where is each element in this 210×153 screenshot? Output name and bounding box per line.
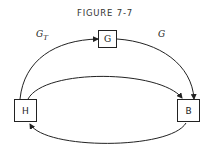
node-label: H: [22, 106, 29, 116]
node-g: G: [98, 30, 117, 48]
edge-label-subscript: T: [43, 34, 48, 42]
edge-h-to-g: [20, 39, 98, 99]
edge-label-h-to-g: GT: [36, 29, 48, 42]
edge-h-to-b: [28, 76, 182, 99]
edge-g-to-b: [117, 39, 194, 99]
node-label: G: [104, 34, 111, 44]
edge-label-g-to-b: G: [158, 29, 165, 39]
diagram-edges: [0, 0, 210, 153]
node-b: B: [177, 99, 200, 122]
node-h: H: [14, 99, 37, 122]
edge-b-to-h: [30, 123, 186, 143]
node-label: B: [185, 106, 191, 116]
edge-label-main: G: [158, 29, 165, 39]
